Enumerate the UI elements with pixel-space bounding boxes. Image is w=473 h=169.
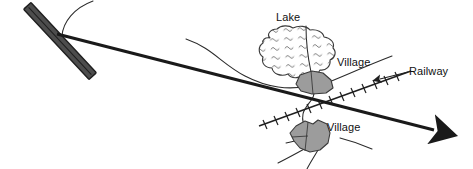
road-south-tail — [307, 150, 318, 169]
road-network — [62, 1, 392, 169]
lake-label: Lake — [276, 12, 300, 23]
village-south-polygon — [290, 120, 330, 152]
village-north-shape — [296, 71, 333, 94]
lake-polygon — [259, 26, 335, 78]
lake-outline — [259, 26, 335, 78]
map-canvas — [0, 0, 473, 169]
schematic-map-figure: Lake Village Village Railway — [0, 0, 473, 169]
village-south-shape — [290, 120, 330, 152]
village-north-polygon — [296, 71, 333, 94]
main-highway — [57, 34, 434, 130]
road-south-east — [340, 138, 372, 149]
village-south-label: Village — [327, 122, 361, 133]
railway-label: Railway — [409, 66, 448, 77]
railway-leader-line — [380, 72, 408, 79]
village-north-label: Village — [337, 57, 371, 68]
